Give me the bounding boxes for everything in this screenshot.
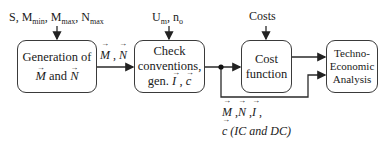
check-conventions-box: Check conventions, gen. I , c xyxy=(134,40,205,93)
cost-function-box: Cost function xyxy=(241,40,292,93)
check-inputs-label: Um, no xyxy=(152,10,183,26)
techno-economic-analysis-box: Techno- Economic Analysis xyxy=(326,40,378,93)
costs-input-label: Costs xyxy=(249,9,276,24)
gen-to-check-edge-label: M , N xyxy=(100,48,127,63)
branch-node xyxy=(218,64,223,69)
generation-inputs-label: S, Mmin, Mmax, Nmax xyxy=(9,10,104,26)
generation-title: Generation of xyxy=(22,50,91,65)
generation-box: Generation of M and N xyxy=(17,40,97,93)
feedback-edge-label-line2: c (IC and DC) xyxy=(222,124,291,139)
